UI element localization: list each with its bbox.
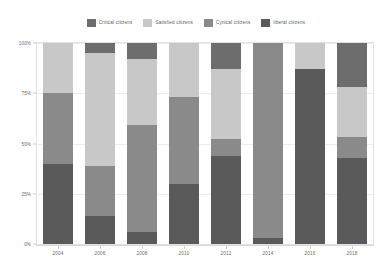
legend-label: liberal citizens <box>273 19 305 27</box>
y-axis-tick-label: 0% <box>24 242 31 247</box>
x-axis-tick-mark <box>310 246 311 249</box>
bar-segment[interactable] <box>211 156 241 244</box>
bar-segment[interactable] <box>85 43 115 53</box>
legend-swatch-icon <box>204 19 213 27</box>
bar-segment[interactable] <box>43 93 73 163</box>
bar-segment[interactable] <box>295 69 325 244</box>
x-axis-tick-mark <box>268 246 269 249</box>
x-axis-tick-label: 2012 <box>211 251 241 256</box>
x-axis-tick-mark <box>142 246 143 249</box>
x-axis-tick-label: 2018 <box>337 251 367 256</box>
x-axis-tick-mark <box>226 246 227 249</box>
x-axis-tick: 2010 <box>169 246 199 262</box>
bar-segment[interactable] <box>337 43 367 87</box>
legend-item[interactable]: Satisfied citizens <box>143 19 192 27</box>
legend-label: Satisfied citizens <box>155 19 192 27</box>
bar-segment[interactable] <box>211 69 241 139</box>
x-axis-tick: 2016 <box>295 246 325 262</box>
y-axis: 100%75%50%25%0% <box>0 42 36 245</box>
x-axis-tick-label: 2016 <box>295 251 325 256</box>
bar-segment[interactable] <box>127 232 157 244</box>
chart-legend: Critical citizensSatisfied citizensCynic… <box>0 19 392 27</box>
bar-segment[interactable] <box>127 59 157 125</box>
x-axis-tick-label: 2010 <box>169 251 199 256</box>
x-axis-tick-mark <box>184 246 185 249</box>
x-axis-tick-label: 2004 <box>43 251 73 256</box>
x-axis-tick: 2014 <box>253 246 283 262</box>
legend-item[interactable]: Critical citizens <box>87 19 133 27</box>
bar-segment[interactable] <box>169 97 199 183</box>
x-axis-tick-mark <box>100 246 101 249</box>
legend-label: Critical citizens <box>99 19 133 27</box>
x-axis-tick: 2004 <box>43 246 73 262</box>
bar-segment[interactable] <box>337 137 367 157</box>
bar-column[interactable] <box>295 43 325 244</box>
bar-segment[interactable] <box>337 158 367 244</box>
bar-column[interactable] <box>211 43 241 244</box>
bar-column[interactable] <box>127 43 157 244</box>
bar-segment[interactable] <box>43 43 73 93</box>
bar-segment[interactable] <box>85 166 115 216</box>
legend-swatch-icon <box>87 19 96 27</box>
y-axis-tick-label: 50% <box>22 141 32 146</box>
bar-segment[interactable] <box>253 43 283 238</box>
legend-label: Cynical citizens <box>216 19 251 27</box>
bar-segment[interactable] <box>211 43 241 69</box>
x-axis: 20042006200820102012201420162018 <box>37 246 373 262</box>
x-axis-tick-mark <box>352 246 353 249</box>
legend-swatch-icon <box>143 19 152 27</box>
x-axis-tick: 2012 <box>211 246 241 262</box>
bar-segment[interactable] <box>43 164 73 244</box>
bar-segment[interactable] <box>295 43 325 69</box>
bar-segment[interactable] <box>169 184 199 244</box>
y-axis-tick-label: 25% <box>22 191 32 196</box>
bar-column[interactable] <box>337 43 367 244</box>
x-axis-tick-label: 2014 <box>253 251 283 256</box>
bar-segment[interactable] <box>253 238 283 244</box>
bar-column[interactable] <box>169 43 199 244</box>
bar-segment[interactable] <box>85 216 115 244</box>
bars-container <box>37 43 373 244</box>
bar-segment[interactable] <box>211 139 241 155</box>
x-axis-tick-mark <box>58 246 59 249</box>
x-axis-tick-label: 2006 <box>85 251 115 256</box>
bar-segment[interactable] <box>127 43 157 59</box>
bar-column[interactable] <box>253 43 283 244</box>
stacked-bar-chart: Critical citizensSatisfied citizensCynic… <box>0 0 392 277</box>
x-axis-tick-label: 2008 <box>127 251 157 256</box>
legend-item[interactable]: liberal citizens <box>261 19 305 27</box>
bar-segment[interactable] <box>127 125 157 232</box>
legend-swatch-icon <box>261 19 270 27</box>
bar-segment[interactable] <box>169 43 199 97</box>
y-axis-tick-label: 100% <box>19 41 31 46</box>
x-axis-tick: 2018 <box>337 246 367 262</box>
bar-column[interactable] <box>85 43 115 244</box>
x-axis-tick: 2008 <box>127 246 157 262</box>
bar-segment[interactable] <box>85 53 115 166</box>
y-axis-tick-label: 75% <box>22 91 32 96</box>
x-axis-tick: 2006 <box>85 246 115 262</box>
legend-item[interactable]: Cynical citizens <box>204 19 251 27</box>
bar-column[interactable] <box>43 43 73 244</box>
bar-segment[interactable] <box>337 87 367 137</box>
